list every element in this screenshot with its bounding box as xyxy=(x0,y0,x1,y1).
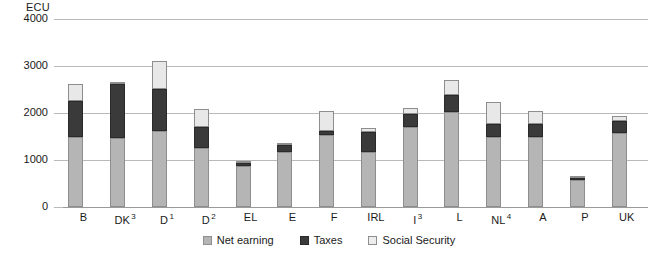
x-axis-labels: BDK3D1D2ELEFIRLI3LNL4APUK xyxy=(63,210,648,230)
bar-group[interactable] xyxy=(528,19,543,207)
x-axis-label-footnote: 4 xyxy=(507,212,511,221)
bar-segment-tax[interactable] xyxy=(110,84,125,138)
bar-group[interactable] xyxy=(444,19,459,207)
bar-group[interactable] xyxy=(236,19,251,207)
y-tick-mark-0 xyxy=(54,207,63,208)
bar-segment-soc[interactable] xyxy=(277,143,292,145)
bar-segment-net[interactable] xyxy=(277,152,292,207)
bar-segment-net[interactable] xyxy=(236,166,251,207)
bar-segment-tax[interactable] xyxy=(486,124,501,137)
bar-group[interactable] xyxy=(570,19,585,207)
bar-segment-net[interactable] xyxy=(486,137,501,207)
bar-group[interactable] xyxy=(152,19,167,207)
y-axis-tick-label: 2000 xyxy=(2,107,48,118)
bar-segment-soc[interactable] xyxy=(486,102,501,124)
bar-group[interactable] xyxy=(319,19,334,207)
bar-segment-net[interactable] xyxy=(444,112,459,207)
x-axis-category-label: UK xyxy=(597,210,657,224)
bar-segment-tax[interactable] xyxy=(528,124,543,137)
bar-segment-soc[interactable] xyxy=(528,111,543,124)
y-tick-mark-3000 xyxy=(54,66,63,67)
x-axis-label-footnote: 3 xyxy=(418,212,422,221)
bar-segment-tax[interactable] xyxy=(68,101,83,136)
bar-group[interactable] xyxy=(194,19,209,207)
bar-group[interactable] xyxy=(403,19,418,207)
bar-segment-net[interactable] xyxy=(570,180,585,207)
bar-segment-net[interactable] xyxy=(152,131,167,207)
bar-segment-tax[interactable] xyxy=(361,132,376,152)
bar-segment-net[interactable] xyxy=(319,135,334,207)
legend-swatch-tax-icon xyxy=(300,236,309,245)
bar-segment-soc[interactable] xyxy=(570,176,585,178)
x-axis-label-footnote: 3 xyxy=(131,212,135,221)
bar-segment-tax[interactable] xyxy=(444,95,459,111)
bar-segment-soc[interactable] xyxy=(403,108,418,114)
legend-label: Social Security xyxy=(382,234,455,246)
bar-segment-net[interactable] xyxy=(361,152,376,207)
y-axis-tick-label: 4000 xyxy=(2,13,48,24)
x-axis-label-footnote: 1 xyxy=(169,212,173,221)
bar-segment-tax[interactable] xyxy=(612,121,627,133)
legend-swatch-soc-icon xyxy=(368,236,377,245)
bar-segment-tax[interactable] xyxy=(277,145,292,152)
bar-segment-tax[interactable] xyxy=(403,114,418,127)
bar-segment-net[interactable] xyxy=(528,137,543,207)
bar-segment-tax[interactable] xyxy=(236,163,251,166)
gridline-0 xyxy=(63,207,648,208)
y-axis-tick-label: 3000 xyxy=(2,60,48,71)
bar-segment-soc[interactable] xyxy=(319,111,334,131)
bar-segment-net[interactable] xyxy=(612,133,627,207)
bar-group[interactable] xyxy=(110,19,125,207)
bar-group[interactable] xyxy=(68,19,83,207)
y-tick-mark-2000 xyxy=(54,113,63,114)
legend-label: Net earning xyxy=(217,234,274,246)
bar-segment-tax[interactable] xyxy=(194,127,209,148)
legend-item-tax[interactable]: Taxes xyxy=(300,234,343,246)
bar-group[interactable] xyxy=(612,19,627,207)
bar-segment-net[interactable] xyxy=(68,137,83,208)
bar-segment-tax[interactable] xyxy=(152,89,167,131)
bar-segment-tax[interactable] xyxy=(570,178,585,180)
y-tick-mark-4000 xyxy=(54,19,63,20)
legend-label: Taxes xyxy=(314,234,343,246)
ecu-stacked-bar-chart: ECU 40003000200010000 BDK3D1D2ELEFIRLI3L… xyxy=(0,0,658,261)
bar-segment-net[interactable] xyxy=(194,148,209,207)
plot-area: 40003000200010000 xyxy=(63,19,648,207)
bar-group[interactable] xyxy=(277,19,292,207)
legend-item-soc[interactable]: Social Security xyxy=(368,234,455,246)
bars-layer xyxy=(63,19,648,207)
bar-segment-soc[interactable] xyxy=(110,82,125,84)
chart-legend: Net earningTaxesSocial Security xyxy=(0,234,658,246)
bar-segment-net[interactable] xyxy=(110,138,125,207)
bar-segment-tax[interactable] xyxy=(319,131,334,135)
x-axis-label-footnote: 2 xyxy=(211,212,215,221)
bar-group[interactable] xyxy=(361,19,376,207)
bar-segment-soc[interactable] xyxy=(194,109,209,127)
y-tick-mark-1000 xyxy=(54,160,63,161)
bar-segment-soc[interactable] xyxy=(236,161,251,163)
bar-segment-soc[interactable] xyxy=(444,80,459,95)
bar-segment-soc[interactable] xyxy=(152,61,167,88)
legend-swatch-net-icon xyxy=(203,236,212,245)
bar-segment-soc[interactable] xyxy=(612,116,627,121)
bar-segment-net[interactable] xyxy=(403,127,418,207)
bar-group[interactable] xyxy=(486,19,501,207)
legend-item-net[interactable]: Net earning xyxy=(203,234,274,246)
bar-segment-soc[interactable] xyxy=(361,128,376,132)
bar-segment-soc[interactable] xyxy=(68,84,83,101)
y-axis-tick-label: 0 xyxy=(2,201,48,212)
y-axis-tick-label: 1000 xyxy=(2,154,48,165)
